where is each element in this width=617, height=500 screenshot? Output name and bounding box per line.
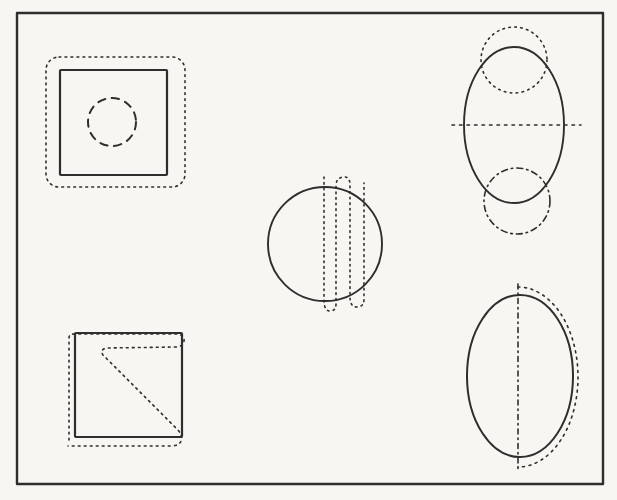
- scanned-figure-page: [0, 0, 617, 500]
- sketch-figure-canvas: [0, 0, 617, 500]
- paper-background: [0, 0, 617, 500]
